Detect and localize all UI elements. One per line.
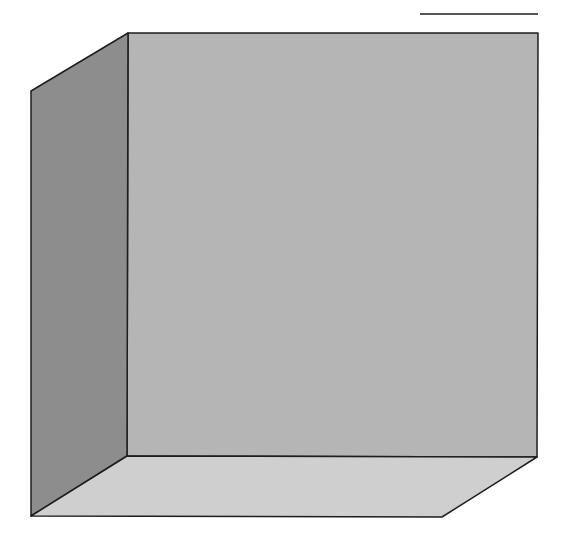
back-wall — [127, 33, 538, 457]
3d-box-diagram — [0, 0, 569, 550]
side-wall — [31, 33, 128, 516]
